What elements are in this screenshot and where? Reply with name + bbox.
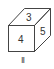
front-face-label: 4 bbox=[18, 34, 24, 45]
top-face-label: 3 bbox=[26, 12, 32, 23]
figure-caption: II bbox=[0, 55, 45, 65]
right-face-label: 5 bbox=[40, 26, 46, 37]
